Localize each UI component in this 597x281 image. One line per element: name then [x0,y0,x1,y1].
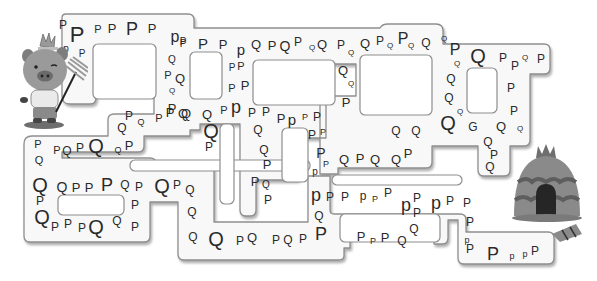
maze-letter: Q [496,120,506,133]
maze-letter: Q [34,207,50,227]
maze-letter: Q [391,125,400,137]
maze-letter: P [337,39,345,51]
maze-letter: P [53,145,60,156]
maze-letter: Q [370,153,380,166]
maze-letter: P [315,225,327,243]
maze-letter: p [237,42,245,57]
maze-letter: Q [314,210,323,222]
maze-letter: P [398,31,409,47]
maze-letter: P [220,105,227,116]
maze-letter: Q [391,153,401,166]
maze-letter: P [381,231,390,244]
maze-letter: Q [338,64,348,77]
maze-letter: Q [470,46,486,66]
maze-letter: Q [181,107,191,120]
maze-letter: Q [411,125,420,137]
maze-letter: Q [203,121,219,141]
maze-puzzle: PPPPPPpPpPPPPpQPQPQQPQQPQPQQQPQQPPQPQPQQ… [0,0,597,281]
maze-letter: Q [444,92,453,104]
maze-letter: p [312,167,318,177]
maze-letter: Q [517,125,523,133]
maze-letter: p [401,196,411,214]
maze-letter: P [76,142,84,154]
maze-letter: Q [88,217,104,237]
maze-letter: P [131,199,139,211]
maze-letter: P [446,195,454,207]
maze-letter: P [264,194,272,206]
maze-letter: Q [317,38,327,51]
maze-letter: P [125,110,133,122]
maze-letter: P [499,52,507,64]
maze-letter: P [166,106,175,119]
maze-letter: Q [208,229,224,249]
maze-letter: Q [175,72,185,85]
maze-letter: P [342,96,351,109]
maze-letter: Q [35,155,44,166]
maze-letter: P [450,42,461,58]
maze-letter: Q [280,39,291,53]
maze-letter: P [64,218,72,230]
maze-letter: P [126,20,138,38]
maze-letter: p [288,112,296,127]
maze-letter: P [357,230,366,243]
maze-letter: Q [457,108,463,116]
maze-letter: Q [421,37,430,49]
maze-letter: Q [112,215,121,227]
maze-letter: P [59,19,67,31]
maze-letter: Q [187,206,196,218]
maze-letter: P [294,36,302,48]
maze-letter: P [85,181,94,194]
maze-letter: P [313,111,321,123]
maze-letter: P [251,175,260,188]
maze-letter: P [372,195,378,204]
maze-letter: P [78,222,86,234]
maze-letter: Q [120,179,129,191]
maze-letter: p [231,98,241,116]
maze-letter: P [308,129,316,141]
maze-letter: Q [247,231,257,244]
maze-letter: Q [154,176,170,196]
maze-letter: P [219,38,228,51]
maze-letter: P [51,221,59,233]
maze-letter: Q [62,145,71,157]
maze-letter: P [262,106,270,118]
maze-letter: Q [339,153,349,166]
maze-letter: Q [169,87,175,95]
maze-letter: P [272,234,280,246]
maze-letter: Q [202,108,212,121]
maze-letter: Q [408,42,414,50]
maze-letter: P [34,139,41,150]
maze-letter: Q [251,38,261,51]
maze-letter: P [384,187,392,199]
maze-letter: P [155,113,162,124]
maze-letter: P [302,113,308,122]
maze-letter: Q [188,231,197,243]
maze-letter: P [248,107,256,119]
maze-letter: Q [259,144,268,156]
maze-letter: Q [262,180,270,190]
maze-letter: Q [522,54,528,62]
maze-letter: P [180,37,187,47]
maze-letter: P [463,197,471,209]
maze-letter: Q [454,60,460,68]
maze-letter: P [487,245,499,263]
maze-letter: Q [409,223,418,235]
maze-letter: P [277,112,286,125]
maze-letter: P [148,22,157,35]
maze-letter: Q [348,80,354,88]
maze-letter: P [320,128,326,137]
maze-letter: Q [440,113,456,133]
maze-letter: P [413,207,421,219]
maze-letter: Q [32,175,48,195]
maze-letter: P [125,139,134,152]
maze-letter: P [507,82,515,94]
maze-letter: P [404,147,413,160]
maze-letter: P [413,192,421,204]
maze-letter: P [537,53,545,65]
maze-letter: p [509,252,514,261]
maze-letter: P [510,105,518,117]
maze-letter: p [360,190,367,202]
maze-letter: P [173,179,181,191]
maze-letter: Q [137,118,144,127]
maze-letter: p [171,29,180,45]
